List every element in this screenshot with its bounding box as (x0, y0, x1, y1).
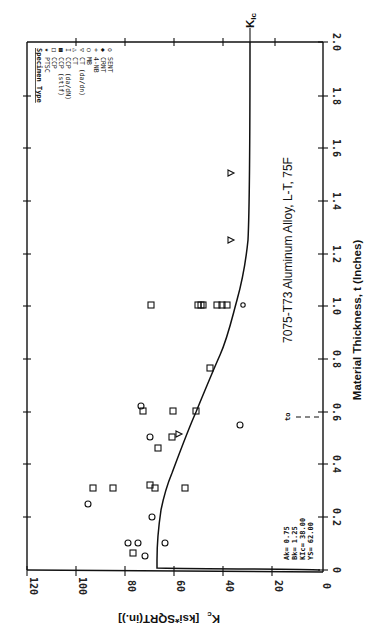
param-ys: YS= 62.00 (307, 522, 315, 560)
tick-label-k: 40 (224, 580, 235, 592)
param-ak: Ak= 0.75 (283, 526, 291, 560)
tick-label-k: 80 (126, 580, 137, 592)
tick-label-t: 1.0 (331, 297, 342, 315)
diamond-icon: ◆ (99, 48, 107, 52)
legend-item-ct: CT (71, 57, 79, 65)
tick-label-t: 1.4 (331, 192, 342, 210)
series-mb (85, 303, 245, 559)
triangle-down-icon: ▽ (78, 48, 86, 52)
tick-label-t: 1.6 (331, 139, 342, 157)
svg-text:KIc: KIc (244, 12, 258, 28)
legend-item-sent: SENT (106, 57, 114, 73)
legend-items: ★PTSC □CCP ▩CCP (stlf) ICCP (da/dN) △CT … (43, 48, 114, 100)
fracture-toughness-chart: 0 0.2 0.4 0.6 0.8 1.0 1.2 1.4 1.6 1.8 2.… (0, 0, 378, 638)
tick-label-k: 120 (28, 577, 39, 595)
tick-label-k: 0 (321, 583, 332, 589)
fitted-curve (157, 42, 320, 570)
series-ccp-variants (195, 302, 206, 308)
x-axis-title: Material Thickness, t (Inches) (351, 240, 363, 401)
legend-item-4nb: 4-NB (92, 57, 100, 73)
chart-title: 7075-T73 Aluminum Alloy, L-T, 75F (281, 157, 295, 343)
t0-marker: to (284, 413, 322, 421)
legend-title: Specimen Type (35, 48, 43, 103)
kic-label-sub: Ic (249, 12, 258, 19)
legend-item-ccp-stlf: CCP (stlf) (57, 57, 65, 96)
param-kic: KIc= 38.00 (299, 518, 307, 560)
tick-label-t: 0.4 (331, 455, 342, 473)
kc-tick-labels: 120 100 80 60 40 20 0 (28, 577, 332, 595)
parameter-block: Ak= 0.75 Bk= 1.25 KIc= 38.00 YS= 62.00 (283, 518, 315, 560)
legend-item-crnt: CRNT (99, 57, 107, 73)
circle-icon: ○ (85, 48, 93, 52)
kc-ticks (23, 38, 275, 576)
plus-icon: + (92, 48, 100, 52)
i-beam-icon: I (64, 48, 72, 52)
thickness-tick-labels: 0 0.2 0.4 0.6 0.8 1.0 1.2 1.4 1.6 1.8 2.… (331, 33, 342, 573)
y-axis-title-sub: c (207, 610, 212, 619)
tick-label-k: 20 (273, 580, 284, 592)
legend-item-ptsc: PTSC (43, 57, 51, 73)
svg-text:Kc[ksi*SQRT(in.)]: Kc[ksi*SQRT(in.)] (118, 610, 220, 625)
square-icon: □ (50, 48, 58, 52)
kic-label: KIc (244, 12, 258, 42)
param-bk: Bk= 1.25 (291, 526, 299, 560)
tick-label-t: 0.8 (331, 350, 342, 368)
legend: Specimen Type ★PTSC □CCP ▩CCP (stlf) ICC… (35, 48, 114, 103)
tick-label-t: 0.6 (331, 403, 342, 421)
y-axis-title-units: [ksi*SQRT(in.)] (118, 613, 199, 625)
plot-frame (27, 42, 323, 572)
tick-label-t: 0 (331, 567, 342, 573)
tick-label-t: 1.2 (331, 245, 342, 263)
y-axis-title: Kc[ksi*SQRT(in.)] (118, 610, 220, 625)
t0-label: to (284, 413, 292, 421)
kc-axis (27, 570, 323, 572)
tick-label-t: 1.8 (331, 87, 342, 105)
legend-item-mb: MB (85, 57, 93, 65)
tick-label-t: 2.0 (331, 33, 342, 51)
tick-label-t: 0.2 (331, 508, 342, 526)
legend-item-ccp: CCP (50, 57, 58, 69)
star-icon: ★ (43, 48, 51, 52)
tick-label-k: 100 (77, 577, 88, 595)
small-circle-icon: o (106, 48, 114, 52)
hatched-square-icon: ▩ (57, 48, 65, 52)
tick-label-k: 60 (175, 580, 186, 592)
triangle-up-icon: △ (71, 48, 79, 52)
legend-item-ct-dadn: CT (da/dn) (78, 57, 86, 96)
legend-item-ccp-dadn: CCP (da/dN) (64, 57, 72, 100)
